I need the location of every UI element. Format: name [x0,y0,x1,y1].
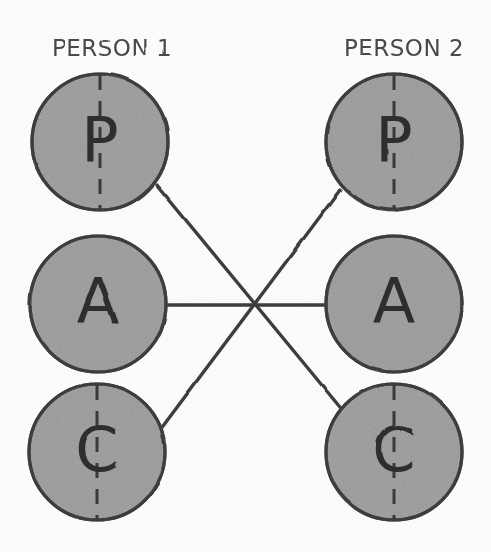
ego-state-p1-child[interactable]: C [29,384,165,520]
ego-state-p2-adult[interactable]: A [326,236,462,372]
ego-state-p2-child[interactable]: C [326,384,462,520]
ego-state-p1-parent[interactable]: P [32,74,168,210]
person-2-label: PERSON 2 [344,35,464,61]
diagram-canvas: PACPAC PERSON 1PERSON 2 [0,0,491,552]
p1-adult-letter: A [77,265,119,338]
p2-parent-letter: P [375,103,412,176]
person-1-label: PERSON 1 [52,35,172,61]
p2-child-letter: C [372,413,415,486]
ego-state-p1-adult[interactable]: A [30,236,166,372]
ego-state-p2-parent[interactable]: P [326,74,462,210]
p1-parent-letter: P [81,103,118,176]
transactional-analysis-diagram: PACPAC PERSON 1PERSON 2 [0,0,491,552]
p2-adult-letter: A [373,265,415,338]
p1-child-letter: C [75,413,118,486]
